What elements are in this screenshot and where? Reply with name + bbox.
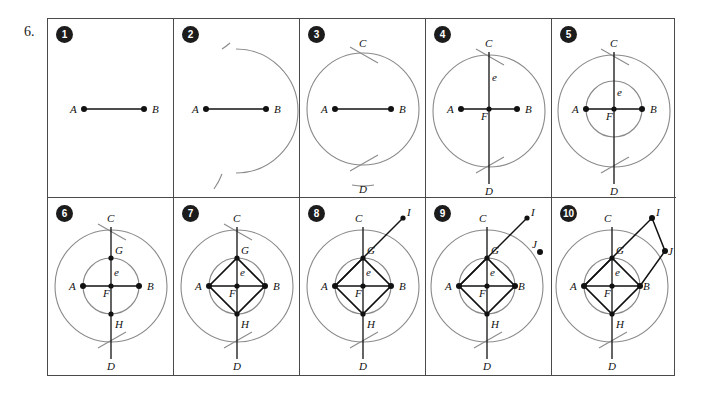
step-cell-7: 7 A B C D F G H (174, 198, 300, 375)
point-label-B: B (399, 280, 406, 292)
point-label-A: A (320, 280, 328, 292)
point-label-H: H (114, 318, 124, 330)
point-label-C: C (485, 37, 493, 49)
point-label-G: G (367, 244, 375, 256)
point-label-B: B (399, 103, 406, 115)
point-label-H: H (240, 318, 250, 330)
point-label-H: H (366, 318, 376, 330)
point-label-B: B (273, 280, 280, 292)
point-label-B: B (152, 103, 159, 115)
point-label-B: B (274, 103, 281, 115)
point-label-B: B (147, 280, 154, 292)
point-label-G: G (241, 244, 249, 256)
step-cell-5: 5 A B C D F e (552, 19, 676, 198)
angle-label-e: e (492, 71, 497, 83)
point-label-G: G (491, 244, 499, 256)
point-label-A: A (444, 280, 452, 292)
step-diagram-9: A B C D F G H e I J (426, 198, 552, 375)
step-cell-4: 4 A B C D F e (426, 19, 552, 198)
step-diagram-4: A B C D F e (426, 19, 552, 198)
angle-label-e: e (114, 266, 119, 278)
point-label-D: D (232, 360, 241, 372)
point-label-C: C (610, 37, 618, 49)
step-diagram-5: A B C D F e (552, 19, 676, 198)
point-label-B: B (525, 103, 532, 115)
step-diagram-10: A B C D F G H e I J (552, 198, 676, 375)
angle-label-e: e (366, 266, 371, 278)
point-label-C: C (479, 212, 487, 224)
point-label-D: D (609, 185, 618, 197)
point-label-A: A (68, 280, 76, 292)
point-label-C: C (233, 212, 241, 224)
point-label-F: F (228, 287, 236, 299)
point-label-A: A (194, 280, 202, 292)
point-label-A: A (446, 103, 454, 115)
point-label-C: C (107, 212, 115, 224)
point-label-D: D (607, 360, 616, 372)
angle-label-e: e (490, 266, 495, 278)
point-label-A: A (191, 103, 199, 115)
point-label-J: J (668, 245, 674, 257)
point-label-D: D (358, 360, 367, 372)
point-label-A: A (571, 103, 579, 115)
point-label-B: B (650, 103, 657, 115)
step-cell-6: 6 A B C D F G H e (48, 198, 174, 375)
page-footer: OFFLINE MATH (0, 378, 711, 412)
point-label-F: F (354, 287, 362, 299)
step-cell-9: 9 A B C D F (426, 198, 552, 375)
point-label-B: B (518, 280, 525, 292)
angle-label-e: e (615, 266, 620, 278)
angle-label-e: e (617, 86, 622, 98)
point-label-G: G (616, 244, 624, 256)
angle-label-e: e (240, 266, 245, 278)
point-label-F: F (102, 287, 110, 299)
point-label-B: B (643, 280, 650, 292)
point-label-F: F (605, 110, 613, 122)
step-diagram-3: A B C D (300, 19, 426, 198)
point-label-D: D (484, 185, 493, 197)
point-label-A: A (320, 103, 328, 115)
point-label-A: A (569, 280, 577, 292)
point-label-A: A (69, 103, 77, 115)
point-label-D: D (482, 360, 491, 372)
step-diagram-6: A B C D F G H e (48, 198, 174, 375)
point-label-H: H (490, 318, 500, 330)
point-label-F: F (478, 287, 486, 299)
step-diagram-2: A B (174, 19, 300, 198)
step-cell-1: 1 A B (48, 19, 174, 198)
point-label-I: I (655, 206, 661, 218)
point-label-D: D (358, 183, 367, 195)
step-cell-10: 10 A B C D F (552, 198, 676, 375)
point-label-C: C (604, 212, 612, 224)
step-diagram-8: A B C D F G H e I (300, 198, 426, 375)
point-label-H: H (615, 318, 625, 330)
point-label-C: C (355, 212, 363, 224)
step-cell-2: 2 A B (174, 19, 300, 198)
step-cell-8: 8 A B C D F G (300, 198, 426, 375)
point-label-D: D (106, 360, 115, 372)
point-label-I: I (406, 206, 412, 218)
point-label-C: C (359, 37, 367, 49)
point-label-I: I (530, 206, 536, 218)
worksheet-page: 6. 1 A B 2 A B (0, 0, 711, 412)
step-diagram-7: A B C D F G H e (174, 198, 300, 375)
point-label-F: F (603, 287, 611, 299)
point-label-F: F (480, 110, 488, 122)
point-label-J: J (532, 238, 538, 250)
question-number: 6. (24, 24, 35, 40)
construction-steps-grid: 1 A B 2 A B 3 (47, 18, 675, 376)
point-label-G: G (115, 244, 123, 256)
step-cell-3: 3 A B C D (300, 19, 426, 198)
step-diagram-1: A B (48, 19, 174, 198)
